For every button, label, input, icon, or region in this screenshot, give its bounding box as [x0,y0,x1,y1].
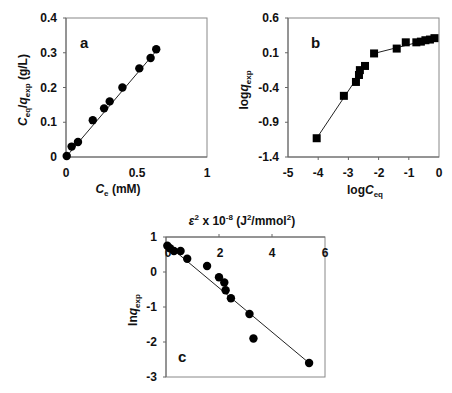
chart-b-xticks: -5 -4 -3 -2 -1 0 [283,166,443,180]
chart-a-xtick: 0 [63,166,70,180]
data-point [220,278,228,286]
data-point [183,255,191,263]
chart-b-ytick: 0.1 [262,46,279,60]
chart-a-ytick: 0.1 [40,115,57,129]
chart-b-ytick: -0.4 [258,81,279,95]
data-point [340,92,348,100]
chart-b-ticks [285,18,409,160]
chart-a-xticks: 0 0.5 1 [63,166,211,180]
chart-b-ytick: -0.9 [258,115,279,129]
chart-c-yticks: 1 0 -1 -2 -3 [146,230,157,384]
data-point [227,294,235,302]
chart-c-ytick: -2 [146,335,157,349]
data-point [430,34,438,42]
data-point [370,49,378,57]
chart-a-ytick: 0.2 [40,81,57,95]
data-point [203,262,211,270]
chart-b-ytick: 0.6 [262,11,279,25]
chart-b-xlabel: logCeq [347,183,383,199]
data-point [89,116,97,124]
data-point [176,247,184,255]
data-point [118,83,126,91]
figure-canvas: 0 0.1 0.2 0.3 0.4 0 0.5 1 Ce (mM) Ceq/qe… [0,0,452,393]
chart-c-panel-label: c [178,348,186,365]
chart-a: 0 0.1 0.2 0.3 0.4 0 0.5 1 Ce (mM) Ceq/qe… [16,11,211,198]
chart-b-ytick: -1.4 [258,150,279,164]
data-point [221,286,229,294]
chart-b-ylabel: logqexp [237,70,253,109]
chart-b: 0.6 0.1 -0.4 -0.9 -1.4 -5 -4 -3 -2 -1 0 … [237,11,443,199]
chart-a-xtick: 0.5 [129,166,146,180]
data-point [402,38,410,46]
chart-a-series [63,45,161,160]
chart-b-xtick: 0 [436,166,443,180]
data-point [249,334,257,342]
data-point [100,104,108,112]
chart-c-xtick: 6 [322,246,329,260]
chart-b-xtick: -5 [283,166,294,180]
chart-a-ytick: 0 [50,150,57,164]
chart-b-xtick: -4 [313,166,324,180]
chart-b-series [313,34,439,142]
chart-b-xtick: -3 [343,166,354,180]
data-point [361,62,369,70]
data-point [305,359,313,367]
chart-a-ytick: 0.4 [40,11,57,25]
chart-c: 1 0 -1 -2 -3 0 2 4 6 ε2 x 10-8 (J2/mmol2… [126,213,329,384]
chart-b-yticks: 0.6 0.1 -0.4 -0.9 -1.4 [258,11,279,164]
chart-a-ytick: 0.3 [40,46,57,60]
data-point [352,78,360,86]
chart-a-panel-label: a [80,34,89,51]
data-point [313,134,321,142]
data-point [74,138,82,146]
chart-c-ytick: 0 [150,265,157,279]
chart-b-panel-label: b [311,34,320,51]
chart-c-xtick: 2 [217,246,224,260]
chart-a-yticks: 0 0.1 0.2 0.3 0.4 [40,11,66,164]
chart-c-xtick: 4 [269,246,276,260]
chart-c-ytick: -3 [146,370,157,384]
data-point [152,45,160,53]
chart-c-ytick: 1 [150,230,157,244]
chart-c-ytick: -1 [146,300,157,314]
chart-c-ylabel: lnqexp [126,294,142,326]
data-point [393,45,401,53]
chart-b-xtick: -2 [374,166,385,180]
chart-c-xlabel: ε2 x 10-8 (J2/mmol2) [189,213,295,228]
chart-a-xlabel: Ce (mM) [95,182,140,198]
chart-a-xtick: 1 [204,166,211,180]
data-point [135,64,143,72]
data-point [106,97,114,105]
chart-b-xtick: -1 [404,166,415,180]
chart-a-ylabel: Ceq/qexp (g/L) [16,54,32,126]
data-point [63,152,71,160]
data-point [146,54,154,62]
data-point [245,310,253,318]
